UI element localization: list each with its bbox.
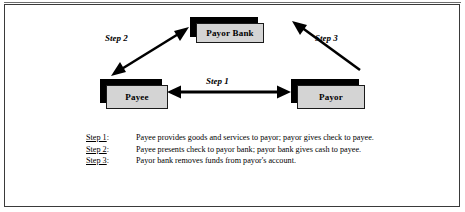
frame-top-accent xyxy=(4,2,461,3)
node-payor-bank: Payor Bank xyxy=(190,17,258,37)
legend-key: Step 2: xyxy=(86,145,136,154)
legend-key-word: Step 1 xyxy=(86,133,107,142)
node-face: Payor Bank xyxy=(196,23,264,43)
node-label: Payor Bank xyxy=(206,28,254,38)
legend-key-suffix: : xyxy=(107,133,109,142)
node-payee: Payee xyxy=(100,79,162,103)
legend-description: Payor bank removes funds from payor's ac… xyxy=(136,156,396,167)
node-face: Payee xyxy=(106,85,168,109)
legend-key-suffix: : xyxy=(107,145,109,154)
legend: Step 1: Payee provides goods and service… xyxy=(86,133,396,168)
legend-row: Step 1: Payee provides goods and service… xyxy=(86,133,396,144)
arrow-label-step2: Step 2 xyxy=(105,33,128,43)
node-label: Payee xyxy=(125,92,149,102)
node-face: Payor xyxy=(297,85,365,109)
node-payor: Payor xyxy=(291,79,359,103)
legend-row: Step 2: Payee presents check to payor ba… xyxy=(86,145,396,156)
node-label: Payor xyxy=(319,92,343,102)
legend-key: Step 1: xyxy=(86,133,136,142)
legend-description: Payee presents check to payor bank; payo… xyxy=(136,145,396,156)
legend-key: Step 3: xyxy=(86,156,136,165)
legend-row: Step 3: Payor bank removes funds from pa… xyxy=(86,156,396,167)
diagram-figure: Payor Bank Payee Payor Step 1 Step 2 Ste… xyxy=(0,0,465,212)
arrow-label-step3: Step 3 xyxy=(315,33,338,43)
legend-key-word: Step 2 xyxy=(86,145,107,154)
legend-key-suffix: : xyxy=(107,156,109,165)
legend-description: Payee provides goods and services to pay… xyxy=(136,133,396,144)
legend-key-word: Step 3 xyxy=(86,156,107,165)
arrow-label-step1: Step 1 xyxy=(206,76,229,86)
